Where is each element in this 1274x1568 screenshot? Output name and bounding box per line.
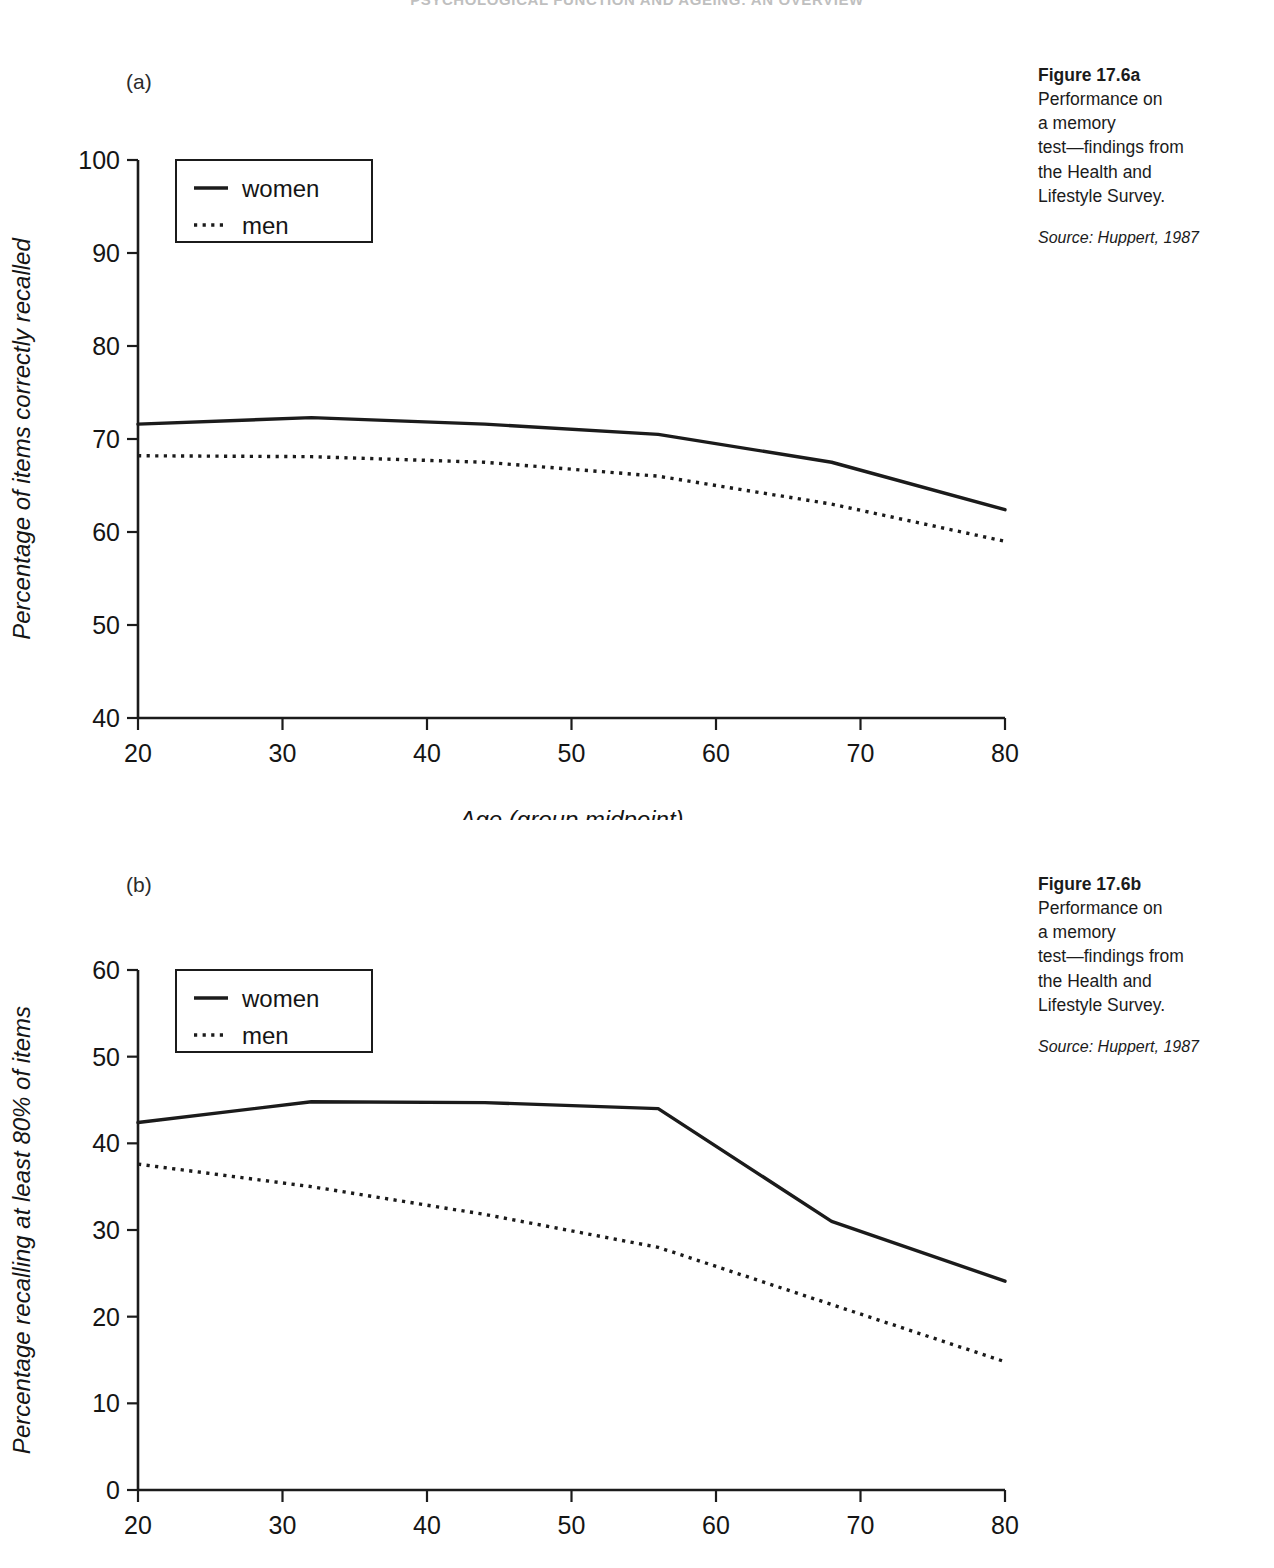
y-tick-label-0: 0 [106, 1476, 120, 1504]
y-tick-label-50: 50 [92, 1043, 120, 1071]
x-tick-label-50: 50 [558, 739, 586, 767]
x-tick-label-60: 60 [702, 739, 730, 767]
x-tick-label-70: 70 [847, 1511, 875, 1539]
legend-label-men: men [242, 1022, 289, 1049]
series-line-women [138, 418, 1005, 510]
running-head: PSYCHOLOGICAL FUNCTION AND AGEING: AN OV… [0, 0, 1274, 8]
series-line-women [138, 1102, 1005, 1281]
chart-a-canvas: 40506070809010020304050607080Percentage … [0, 120, 1030, 820]
y-tick-label-90: 90 [92, 239, 120, 267]
y-tick-label-70: 70 [92, 425, 120, 453]
y-axis-title: Percentage of items correctly recalled [8, 238, 35, 640]
figure-caption-b-source: Source: Huppert, 1987 [1038, 1036, 1266, 1058]
figure-caption-a: Figure 17.6a Performance on a memory tes… [1038, 63, 1266, 249]
x-tick-label-30: 30 [269, 1511, 297, 1539]
figure-caption-b: Figure 17.6b Performance on a memory tes… [1038, 872, 1266, 1058]
y-tick-label-60: 60 [92, 956, 120, 984]
y-tick-label-20: 20 [92, 1303, 120, 1331]
x-axis-title: Age (group midpoint) [457, 806, 683, 820]
figure-caption-a-body: Performance on a memory test—findings fr… [1038, 87, 1266, 208]
y-tick-label-50: 50 [92, 611, 120, 639]
legend-label-men: men [242, 212, 289, 239]
x-tick-label-30: 30 [269, 739, 297, 767]
legend-label-women: women [241, 985, 319, 1012]
y-tick-label-40: 40 [92, 1129, 120, 1157]
x-tick-label-40: 40 [413, 1511, 441, 1539]
chart-figure-17-6b: 010203040506020304050607080Percentage re… [0, 930, 1030, 1568]
y-tick-label-100: 100 [78, 146, 120, 174]
series-line-men [138, 1164, 1005, 1362]
x-tick-label-20: 20 [124, 739, 152, 767]
chart-figure-17-6a: 40506070809010020304050607080Percentage … [0, 120, 1030, 820]
chart-b-canvas: 010203040506020304050607080Percentage re… [0, 930, 1030, 1568]
x-tick-label-60: 60 [702, 1511, 730, 1539]
y-tick-label-60: 60 [92, 518, 120, 546]
panel-label-b: (b) [126, 873, 152, 897]
legend-label-women: women [241, 175, 319, 202]
y-tick-label-10: 10 [92, 1389, 120, 1417]
x-tick-label-40: 40 [413, 739, 441, 767]
x-tick-label-20: 20 [124, 1511, 152, 1539]
y-tick-label-40: 40 [92, 704, 120, 732]
figure-caption-b-body: Performance on a memory test—findings fr… [1038, 896, 1266, 1017]
series-line-men [138, 456, 1005, 542]
figure-caption-a-title: Figure 17.6a [1038, 63, 1266, 87]
x-tick-label-80: 80 [991, 739, 1019, 767]
y-axis-title: Percentage recalling at least 80% of ite… [8, 1006, 35, 1454]
figure-caption-a-source: Source: Huppert, 1987 [1038, 227, 1266, 249]
y-tick-label-30: 30 [92, 1216, 120, 1244]
panel-label-a: (a) [126, 70, 152, 94]
x-tick-label-80: 80 [991, 1511, 1019, 1539]
x-tick-label-50: 50 [558, 1511, 586, 1539]
figure-caption-b-title: Figure 17.6b [1038, 872, 1266, 896]
y-tick-label-80: 80 [92, 332, 120, 360]
x-tick-label-70: 70 [847, 739, 875, 767]
